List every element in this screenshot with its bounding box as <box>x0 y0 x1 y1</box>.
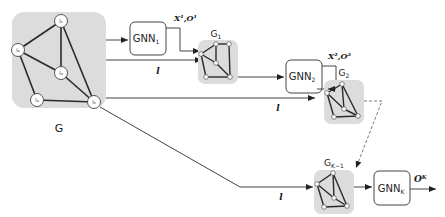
gnn-block-k: GNNK <box>374 171 410 205</box>
edge-label-x2o2: X²,O² <box>327 51 351 61</box>
svg-text:GNN1: GNN1 <box>133 33 160 45</box>
input-graph: l₁ l₂ l₃ l₄ l₅ G <box>12 12 107 135</box>
edge-label-x1o1: X¹,O¹ <box>173 13 197 23</box>
edge-label-l: l <box>276 103 280 113</box>
svg-text:GK−1: GK−1 <box>324 158 344 169</box>
input-graph-label: G <box>55 122 64 135</box>
svg-text:G1: G1 <box>211 29 222 40</box>
gnn-block-1: GNN1 <box>130 22 166 55</box>
edge-label-l: l <box>279 192 283 202</box>
svg-text:G2: G2 <box>339 68 350 79</box>
node-label: l₄ <box>35 97 38 103</box>
node-label: l₅ <box>92 99 95 105</box>
edge-label-ok: Oᴷ <box>414 174 428 184</box>
intermediate-graph-k-minus-1: GK−1 <box>314 158 354 214</box>
node-label: l₂ <box>16 47 19 53</box>
node-label: l₃ <box>59 70 62 76</box>
gnn-pipeline-diagram: l₁ l₂ l₃ l₄ l₅ G l l l GNN1 X¹,O¹ <box>0 0 445 217</box>
intermediate-graph-2: G2 <box>324 68 364 124</box>
node-label: l₁ <box>59 18 62 24</box>
gnn-block-2: GNN2 <box>286 60 322 93</box>
edge-label-l: l <box>156 66 160 76</box>
svg-text:GNN2: GNN2 <box>289 71 316 83</box>
intermediate-graph-1: G1 <box>198 29 238 84</box>
